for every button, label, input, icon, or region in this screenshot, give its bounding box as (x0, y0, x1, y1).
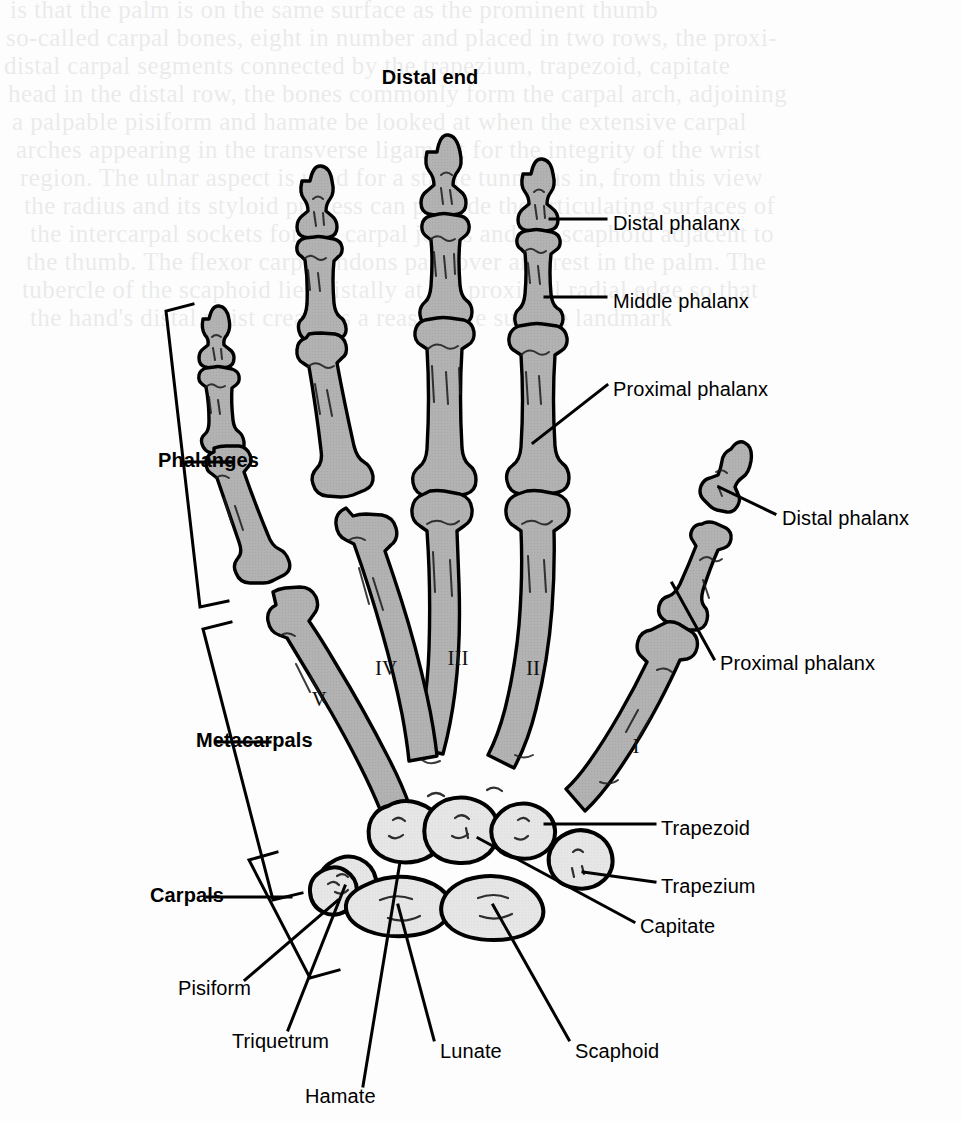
bone-label-distal-phalanx-digit2: Distal phalanx (613, 212, 740, 235)
bone-middle-phalanx-5 (199, 367, 244, 456)
bone-distal-phalanx-4 (297, 166, 337, 240)
metacarpal-numeral-IV: IV (375, 656, 397, 681)
metacarpal-numeral-V: V (311, 687, 326, 712)
bone-proximal-phalanx-4 (297, 333, 373, 497)
group-label-carpals: Carpals (150, 884, 224, 907)
bone-proximal-phalanx-1 (659, 522, 732, 630)
bone-capitate (424, 797, 498, 863)
bone-label-trapezoid: Trapezoid (661, 817, 750, 840)
bone-label-hamate: Hamate (305, 1085, 376, 1108)
bone-label-middle-phalanx-digit2: Middle phalanx (613, 290, 749, 313)
bone-label-distal-phalanx-thumb: Distal phalanx (782, 507, 909, 530)
bone-label-capitate: Capitate (640, 915, 715, 938)
group-label-phalanges: Phalanges (158, 449, 259, 472)
metacarpal-numeral-II: II (526, 656, 540, 681)
bone-metacarpal-1 (566, 622, 697, 811)
bone-proximal-phalanx-3 (413, 318, 476, 499)
page-title: Distal end (382, 66, 479, 89)
bone-proximal-phalanx-2 (507, 324, 569, 497)
bone-scaphoid (441, 876, 543, 940)
metacarpal-numeral-I: I (633, 734, 640, 759)
bone-metacarpal-2 (488, 491, 569, 769)
bone-illustration (0, 0, 961, 1121)
hand-bones-figure: is that the palm is on the same surface … (0, 0, 961, 1121)
bone-label-proximal-phalanx-thumb: Proximal phalanx (720, 652, 875, 675)
metacarpal-numeral-III: III (448, 646, 469, 671)
group-label-metacarpals: Metacarpals (196, 729, 313, 752)
bone-label-triquetrum: Triquetrum (232, 1030, 329, 1053)
bone-distal-phalanx-1 (700, 442, 751, 512)
bone-distal-phalanx-2 (518, 159, 558, 233)
bone-label-trapezium: Trapezium (661, 875, 756, 898)
bone-distal-phalanx-5 (199, 306, 234, 370)
bone-label-proximal-phalanx-digit2: Proximal phalanx (613, 378, 768, 401)
carpal-bone-group (310, 797, 613, 940)
bone-label-scaphoid: Scaphoid (575, 1040, 659, 1063)
bone-label-lunate: Lunate (440, 1040, 502, 1063)
bone-middle-phalanx-4 (297, 237, 346, 344)
bone-label-pisiform: Pisiform (178, 977, 251, 1000)
